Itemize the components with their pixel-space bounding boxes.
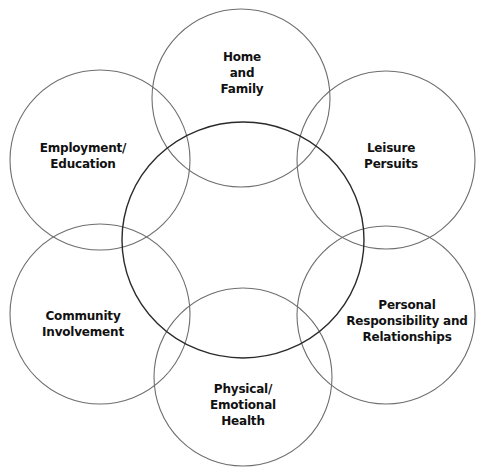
label-line: Community xyxy=(42,308,124,324)
label-line: Personal xyxy=(346,297,467,313)
label-line: Emotional xyxy=(210,397,276,413)
label-line: Physical/ xyxy=(210,381,276,397)
label-physical-emotional-health: Physical/ Emotional Health xyxy=(210,381,276,429)
circle-physical xyxy=(154,288,332,466)
label-employment-education: Employment/ Education xyxy=(40,140,127,172)
label-line: Family xyxy=(221,81,264,97)
label-line: Health xyxy=(210,413,276,429)
label-personal-responsibility: Personal Responsibility and Relationship… xyxy=(346,297,467,345)
label-line: Involvement xyxy=(42,324,124,340)
label-line: Education xyxy=(40,156,127,172)
label-line: Relationships xyxy=(346,329,467,345)
label-line: Employment/ xyxy=(40,140,127,156)
center-circle xyxy=(122,122,364,358)
label-line: Leisure xyxy=(364,140,418,156)
label-home-and-family: Home and Family xyxy=(221,49,264,97)
label-community-involvement: Community Involvement xyxy=(42,308,124,340)
label-line: Home xyxy=(221,49,264,65)
label-line: Responsibility and xyxy=(346,313,467,329)
circle-home xyxy=(152,9,330,187)
label-line: Persuits xyxy=(364,156,418,172)
label-line: and xyxy=(221,65,264,81)
label-leisure-persuits: Leisure Persuits xyxy=(364,140,418,172)
